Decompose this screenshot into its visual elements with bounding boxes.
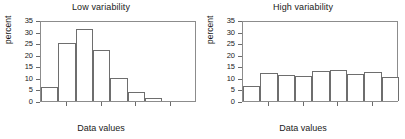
x-axis-label-high: Data values: [202, 123, 404, 133]
bar: [41, 87, 58, 101]
y-tick-label: 0: [231, 97, 235, 106]
plot-area-low: [40, 21, 196, 102]
bar: [243, 86, 260, 101]
y-tick-label: 25: [227, 39, 235, 48]
bar: [76, 29, 93, 101]
bar: [110, 78, 127, 101]
y-tick-label: 15: [25, 62, 33, 71]
x-tick-mark: [303, 102, 304, 106]
bar-series-low: [41, 22, 195, 101]
y-tick-label: 10: [25, 74, 33, 83]
x-tick-mark: [372, 102, 373, 106]
bar-series-high: [243, 22, 397, 101]
x-tick-mark: [135, 102, 136, 106]
bar: [145, 98, 162, 101]
y-axis-ticks-low: 05101520253035: [0, 21, 40, 102]
bar: [128, 92, 145, 101]
y-tick-label: 30: [227, 28, 235, 37]
bar: [295, 76, 312, 101]
y-tick-label: 30: [25, 28, 33, 37]
bar: [364, 72, 381, 101]
bar: [382, 77, 399, 101]
panel-low-variability: Low variability percent 05101520253035 D…: [0, 0, 202, 139]
bar: [347, 74, 364, 101]
y-tick-label: 20: [227, 51, 235, 60]
bar: [330, 70, 347, 101]
x-tick-mark: [66, 102, 67, 106]
x-tick-mark: [101, 102, 102, 106]
y-tick-label: 5: [29, 85, 33, 94]
y-tick-label: 5: [231, 85, 235, 94]
plot-area-high: [242, 21, 398, 102]
bar: [58, 43, 75, 101]
bar: [312, 71, 329, 101]
y-tick-label: 35: [25, 16, 33, 25]
y-tick-label: 15: [227, 62, 235, 71]
chart-title-high: High variability: [202, 2, 404, 12]
x-tick-mark: [268, 102, 269, 106]
y-tick-label: 0: [29, 97, 33, 106]
y-tick-label: 10: [227, 74, 235, 83]
x-tick-mark: [337, 102, 338, 106]
chart-title-low: Low variability: [0, 2, 202, 12]
x-axis-label-low: Data values: [0, 123, 202, 133]
y-tick-label: 25: [25, 39, 33, 48]
x-axis-ticks-low: [40, 102, 196, 108]
panel-high-variability: High variability percent 05101520253035 …: [202, 0, 404, 139]
bar: [260, 73, 277, 101]
two-panel-histogram-figure: Low variability percent 05101520253035 D…: [0, 0, 405, 139]
y-axis-ticks-high: 05101520253035: [202, 21, 242, 102]
y-tick-label: 35: [227, 16, 235, 25]
y-tick-label: 20: [25, 51, 33, 60]
bar: [278, 75, 295, 101]
bar: [93, 50, 110, 101]
x-tick-mark: [170, 102, 171, 106]
x-axis-ticks-high: [242, 102, 398, 108]
